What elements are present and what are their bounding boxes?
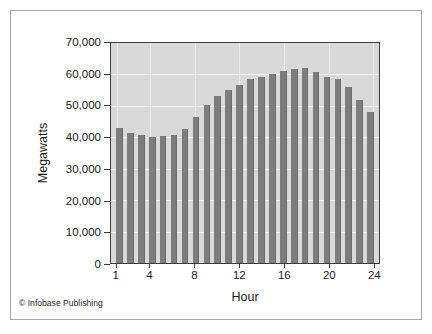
y-axis-tick: [104, 42, 110, 43]
y-axis-tick-label: 10,000: [66, 226, 101, 238]
bar-slot: [256, 43, 267, 263]
plot-area: [110, 42, 380, 264]
x-axis-tick: [239, 264, 240, 268]
bar: [214, 96, 221, 263]
y-axis-tick-label: 30,000: [66, 163, 101, 175]
y-axis-tick: [104, 232, 110, 233]
bar-slot: [267, 43, 278, 263]
y-axis-tick-label: 40,000: [66, 131, 101, 143]
bar: [193, 117, 200, 263]
bar-slot: [169, 43, 180, 263]
x-axis-tick: [149, 264, 150, 268]
bar: [302, 68, 309, 263]
x-axis-tick-label: 8: [191, 269, 197, 281]
bar-series: [111, 43, 379, 263]
bar-slot: [289, 43, 300, 263]
bar-slot: [114, 43, 125, 263]
x-axis-tick-label: 1: [112, 269, 118, 281]
bar-slot: [201, 43, 212, 263]
bar: [269, 74, 276, 264]
bar-slot: [190, 43, 201, 263]
copyright-credit: © Infobase Publishing: [19, 298, 103, 308]
x-axis-tick-label: 20: [323, 269, 336, 281]
y-axis-tick: [104, 169, 110, 170]
y-axis-tick: [104, 137, 110, 138]
bar: [204, 105, 211, 263]
y-axis-tick: [104, 74, 110, 75]
bar-slot: [212, 43, 223, 263]
bar-slot: [332, 43, 343, 263]
bar: [182, 129, 189, 264]
bar: [367, 112, 374, 263]
bar: [345, 87, 352, 263]
x-axis-tick: [116, 264, 117, 268]
bar: [313, 72, 320, 263]
y-axis-tick-label: 20,000: [66, 195, 101, 207]
y-axis-tick-label: 0: [95, 258, 101, 270]
bar: [258, 77, 265, 263]
x-axis-tick-label: 24: [368, 269, 381, 281]
bar: [149, 137, 156, 263]
bar: [127, 133, 134, 263]
x-axis-tick: [374, 264, 375, 268]
x-axis-title: Hour: [110, 290, 380, 304]
bar: [171, 135, 178, 263]
bar-slot: [223, 43, 234, 263]
bar-slot: [147, 43, 158, 263]
x-axis-tick: [329, 264, 330, 268]
bar: [236, 85, 243, 263]
bar-slot: [354, 43, 365, 263]
bar: [225, 90, 232, 263]
bar-slot: [234, 43, 245, 263]
y-axis-tick-label: 60,000: [66, 68, 101, 80]
bar-slot: [311, 43, 322, 263]
bar-slot: [365, 43, 376, 263]
plot-wrapper: 010,00020,00030,00040,00050,00060,00070,…: [110, 42, 380, 264]
y-axis-tick: [104, 264, 110, 265]
x-axis-tick-label: 4: [146, 269, 152, 281]
bar: [116, 128, 123, 263]
y-axis-title-text: Megawatts: [36, 123, 50, 183]
bar-slot: [125, 43, 136, 263]
x-axis-tick-label: 16: [278, 269, 291, 281]
bar: [138, 135, 145, 263]
bar-slot: [136, 43, 147, 263]
bar: [324, 77, 331, 263]
bar-slot: [300, 43, 311, 263]
x-axis-tick: [284, 264, 285, 268]
bar: [291, 69, 298, 263]
x-axis-tick-label: 12: [233, 269, 246, 281]
bar: [356, 100, 363, 263]
bar-slot: [245, 43, 256, 263]
y-axis-tick: [104, 201, 110, 202]
bar: [247, 79, 254, 263]
chart-figure: Megawatts 010,00020,00030,00040,00050,00…: [0, 0, 432, 334]
x-axis-tick: [194, 264, 195, 268]
y-axis-tick-label: 50,000: [66, 99, 101, 111]
bar-slot: [278, 43, 289, 263]
y-axis-title: Megawatts: [34, 42, 52, 264]
bar: [280, 71, 287, 263]
y-axis-tick-label: 70,000: [66, 36, 101, 48]
bar-slot: [158, 43, 169, 263]
bar: [160, 136, 167, 263]
bar-slot: [180, 43, 191, 263]
bar-slot: [343, 43, 354, 263]
bar-slot: [322, 43, 333, 263]
y-axis-tick: [104, 105, 110, 106]
bar: [335, 79, 342, 263]
